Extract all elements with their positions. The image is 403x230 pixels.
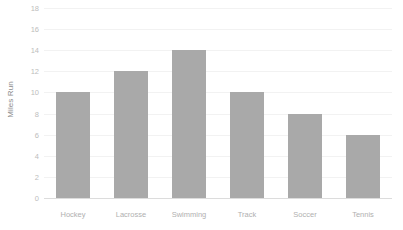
x-tick-slot: Lacrosse xyxy=(102,203,160,221)
x-tick-slot: Track xyxy=(218,203,276,221)
bar[interactable] xyxy=(56,92,90,198)
y-tick-label: 8 xyxy=(35,109,39,118)
x-tick-label: Hockey xyxy=(60,210,85,219)
x-tick-label: Lacrosse xyxy=(116,210,146,219)
y-axis-title-label: Miles Run xyxy=(6,81,15,117)
bar[interactable] xyxy=(346,135,380,198)
bar[interactable] xyxy=(172,50,206,198)
x-tick-slot: Soccer xyxy=(276,203,334,221)
bars xyxy=(44,8,392,198)
bar-slot xyxy=(276,8,334,198)
bar-slot xyxy=(218,8,276,198)
y-axis-title: Miles Run xyxy=(0,0,20,198)
bar[interactable] xyxy=(288,114,322,198)
x-tick-label: Swimming xyxy=(172,210,207,219)
y-tick-label: 4 xyxy=(35,151,39,160)
bar-slot xyxy=(102,8,160,198)
x-tick-label: Track xyxy=(238,210,256,219)
y-tick-label: 10 xyxy=(31,88,39,97)
plot-area: 024681012141618 xyxy=(44,8,392,198)
y-tick-label: 16 xyxy=(31,25,39,34)
x-axis-labels: HockeyLacrosseSwimmingTrackSoccerTennis xyxy=(44,203,392,221)
bar-slot xyxy=(44,8,102,198)
bar-chart: Miles Run 024681012141618 HockeyLacrosse… xyxy=(0,0,403,230)
bar-slot xyxy=(334,8,392,198)
y-tick-label: 2 xyxy=(35,172,39,181)
x-tick-slot: Hockey xyxy=(44,203,102,221)
axis-baseline: 0 xyxy=(44,198,392,199)
y-tick-label: 6 xyxy=(35,130,39,139)
x-tick-slot: Swimming xyxy=(160,203,218,221)
bar[interactable] xyxy=(230,92,264,198)
y-tick-label: 0 xyxy=(35,194,39,203)
x-tick-slot: Tennis xyxy=(334,203,392,221)
x-tick-label: Soccer xyxy=(293,210,316,219)
bar-slot xyxy=(160,8,218,198)
y-tick-label: 12 xyxy=(31,67,39,76)
y-tick-label: 18 xyxy=(31,4,39,13)
x-tick-label: Tennis xyxy=(352,210,374,219)
y-tick-label: 14 xyxy=(31,46,39,55)
bar[interactable] xyxy=(114,71,148,198)
